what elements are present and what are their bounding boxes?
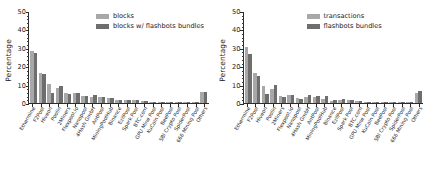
bar [333, 100, 337, 103]
bar [316, 96, 320, 103]
y-minor-tick-mark [242, 89, 244, 90]
bar-group [279, 12, 288, 103]
bar-group [253, 12, 262, 103]
y-tick-mark [26, 86, 29, 87]
bar [119, 100, 123, 103]
y-minor-tick-mark [242, 27, 244, 28]
bar-group [296, 12, 305, 103]
y-minor-tick-mark [27, 64, 29, 65]
y-minor-tick-mark [242, 34, 244, 35]
bar [34, 53, 38, 103]
bar [265, 94, 269, 103]
legend-left: blocks blocks w/ flashbots bundles [96, 13, 204, 30]
bar-group [39, 12, 48, 103]
y-minor-tick-mark [242, 38, 244, 39]
bar [178, 102, 182, 103]
y-tick-label: 50 [232, 9, 240, 16]
y-minor-tick-mark [27, 45, 29, 46]
y-minor-tick-mark [242, 45, 244, 46]
legend-swatch-icon [307, 24, 320, 30]
y-minor-tick-mark [27, 82, 29, 83]
bar [282, 97, 286, 103]
y-minor-tick-mark [27, 75, 29, 76]
y-tick-mark [240, 30, 243, 31]
bar [110, 98, 114, 103]
y-tick-labels-left: 01020304050 [12, 12, 27, 104]
bar [93, 95, 97, 103]
chart-panel-blocks: Percentage 01020304050 EthermineF2PoolHi… [0, 0, 215, 172]
bar [299, 99, 303, 103]
y-minor-tick-mark [27, 71, 29, 72]
x-tick-labels-right: EthermineF2PoolHiveonPoolin2MinersFlexpo… [243, 106, 424, 168]
y-minor-tick-mark [242, 71, 244, 72]
y-minor-tick-mark [27, 16, 29, 17]
y-minor-tick-mark [27, 56, 29, 57]
y-minor-tick-mark [242, 60, 244, 61]
legend-swatch-icon [96, 24, 109, 30]
y-tick-mark [240, 12, 243, 13]
chart-panel-transactions: Percentage 01020304050 EthermineF2PoolHi… [215, 0, 429, 172]
y-tick-mark [26, 30, 29, 31]
y-minor-tick-mark [27, 41, 29, 42]
legend-item: transactions [307, 13, 382, 20]
bar [367, 102, 371, 103]
bar-group [389, 12, 398, 103]
x-tick-labels-left: EthermineF2PoolHiveonPoolin2MinersFlexpo… [28, 106, 209, 168]
y-tick-label: 20 [18, 64, 26, 71]
bar-group [270, 12, 279, 103]
y-minor-tick-mark [27, 100, 29, 101]
bar-group [415, 12, 424, 103]
y-tick-label: 10 [232, 82, 240, 89]
bar [68, 94, 72, 103]
bar-group [64, 12, 73, 103]
y-minor-tick-mark [27, 60, 29, 61]
y-minor-tick-mark [242, 19, 244, 20]
bar [127, 100, 131, 103]
y-minor-tick-mark [27, 34, 29, 35]
y-tick-mark [240, 86, 243, 87]
legend-item: blocks [96, 13, 204, 20]
bar [274, 85, 278, 103]
bar [350, 100, 354, 103]
bar [195, 102, 199, 103]
bar [85, 96, 89, 103]
y-minor-tick-mark [27, 23, 29, 24]
y-tick-label: 50 [18, 9, 26, 16]
y-minor-tick-mark [27, 27, 29, 28]
y-tick-mark [240, 67, 243, 68]
bar [376, 102, 380, 103]
legend-label: flashbots bundles [324, 23, 382, 30]
y-tick-label: 40 [18, 27, 26, 34]
bar [342, 99, 346, 103]
bar [161, 102, 165, 103]
y-minor-tick-mark [242, 78, 244, 79]
y-minor-tick-mark [242, 23, 244, 24]
bar-group [47, 12, 56, 103]
y-minor-tick-mark [242, 56, 244, 57]
bar [170, 102, 174, 103]
bar [187, 102, 191, 103]
bar [325, 96, 329, 103]
legend-item: blocks w/ flashbots bundles [96, 23, 204, 30]
y-minor-tick-mark [27, 97, 29, 98]
bar-group [245, 12, 254, 103]
legend-right: transactions flashbots bundles [307, 13, 382, 30]
y-minor-tick-mark [27, 19, 29, 20]
bar-group [81, 12, 90, 103]
legend-item: flashbots bundles [307, 23, 382, 30]
y-tick-mark [26, 67, 29, 68]
bar-group [56, 12, 65, 103]
bar [418, 91, 422, 103]
bar-group [406, 12, 415, 103]
bar-group [398, 12, 407, 103]
y-minor-tick-mark [242, 97, 244, 98]
y-minor-tick-mark [242, 16, 244, 17]
figure-two-panel-bar-charts: Percentage 01020304050 EthermineF2PoolHi… [0, 0, 429, 172]
bar [102, 97, 106, 103]
y-tick-label: 30 [18, 46, 26, 53]
bar [76, 93, 80, 103]
bar [384, 102, 388, 103]
y-tick-mark [26, 12, 29, 13]
bar [204, 92, 208, 103]
y-minor-tick-mark [242, 41, 244, 42]
